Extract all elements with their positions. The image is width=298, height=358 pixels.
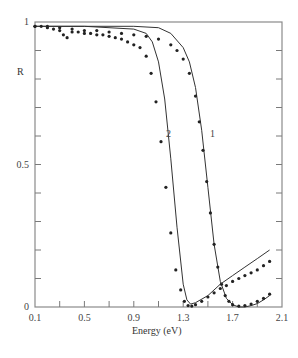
data-point xyxy=(213,291,216,294)
data-point xyxy=(205,180,208,183)
data-point xyxy=(132,43,135,46)
data-point xyxy=(200,300,203,303)
data-point xyxy=(108,35,111,38)
series-line-2 xyxy=(35,26,270,304)
data-point xyxy=(33,25,36,28)
data-point xyxy=(169,43,172,46)
x-tick-label: 2.1 xyxy=(276,312,289,323)
data-point xyxy=(174,268,177,271)
data-point xyxy=(262,264,265,267)
data-point xyxy=(164,186,167,189)
data-point xyxy=(71,28,74,31)
data-point xyxy=(250,271,253,274)
data-point xyxy=(250,303,253,306)
data-point xyxy=(225,284,228,287)
x-tick-label: 0.5 xyxy=(78,312,91,323)
data-point xyxy=(256,268,259,271)
data-point xyxy=(108,30,111,33)
series-line-0 xyxy=(35,26,270,307)
data-point xyxy=(95,33,98,36)
data-point xyxy=(40,25,43,28)
data-point xyxy=(120,38,123,41)
data-point xyxy=(206,295,209,298)
data-point xyxy=(150,72,153,75)
data-point xyxy=(62,33,65,36)
data-point xyxy=(114,36,117,39)
data-point xyxy=(216,266,219,269)
axis-ticks xyxy=(35,51,282,308)
tick-labels: 0.10.50.91.31.72.100.51 xyxy=(17,16,289,323)
data-point xyxy=(194,303,197,306)
data-point xyxy=(224,294,227,297)
series-layer xyxy=(33,25,271,308)
data-point xyxy=(145,55,148,58)
curve-label-1: 1 xyxy=(210,128,215,139)
data-point xyxy=(237,277,240,280)
data-point xyxy=(262,297,265,300)
data-point xyxy=(219,287,222,290)
data-point xyxy=(157,38,160,41)
data-point xyxy=(256,300,259,303)
data-point xyxy=(268,260,271,263)
data-point xyxy=(190,305,193,308)
data-point xyxy=(175,49,178,52)
series-dots-1 xyxy=(33,25,271,308)
data-point xyxy=(126,40,129,43)
y-tick-label: 0.5 xyxy=(17,159,30,170)
y-tick-label: 1 xyxy=(24,16,29,27)
data-point xyxy=(77,30,80,33)
data-point xyxy=(179,288,182,291)
data-point xyxy=(154,100,157,103)
data-point xyxy=(83,29,86,32)
data-point xyxy=(95,29,98,32)
x-tick-label: 0.1 xyxy=(29,312,42,323)
data-point xyxy=(209,211,212,214)
data-point xyxy=(169,231,172,234)
data-point xyxy=(58,29,61,32)
data-point xyxy=(89,32,92,35)
data-point xyxy=(231,280,234,283)
data-point xyxy=(188,72,191,75)
data-point xyxy=(182,58,185,61)
reflectance-chart: 0.10.50.91.31.72.100.51 R Energy (eV) 2 … xyxy=(0,0,298,358)
data-point xyxy=(138,46,141,49)
data-point xyxy=(52,28,55,31)
data-point xyxy=(231,303,234,306)
data-point xyxy=(66,36,69,39)
x-tick-label: 0.9 xyxy=(128,312,141,323)
data-point xyxy=(71,30,74,33)
data-point xyxy=(187,304,190,307)
x-axis-title: Energy (eV) xyxy=(132,325,182,337)
x-tick-label: 1.7 xyxy=(226,312,239,323)
data-point xyxy=(213,243,216,246)
series-dots-3 xyxy=(33,25,271,308)
data-point xyxy=(183,300,186,303)
data-point xyxy=(159,140,162,143)
data-point xyxy=(120,32,123,35)
data-point xyxy=(268,293,271,296)
y-axis-title: R xyxy=(17,66,24,77)
data-point xyxy=(243,274,246,277)
data-point xyxy=(198,120,201,123)
data-point xyxy=(243,304,246,307)
y-tick-label: 0 xyxy=(24,301,29,312)
curve-label-2: 2 xyxy=(166,128,171,139)
data-point xyxy=(194,95,197,98)
data-point xyxy=(46,26,49,29)
data-point xyxy=(83,32,86,35)
data-point xyxy=(237,305,240,308)
data-point xyxy=(132,33,135,36)
data-point xyxy=(101,33,104,36)
x-tick-label: 1.3 xyxy=(177,312,190,323)
data-point xyxy=(227,300,230,303)
data-point xyxy=(201,149,204,152)
